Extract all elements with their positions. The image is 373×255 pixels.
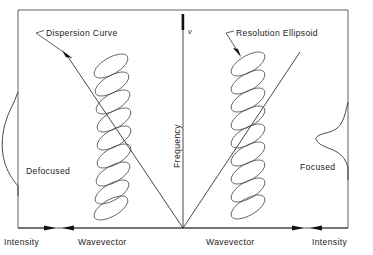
defocused-label: Defocused <box>26 166 70 176</box>
resolution-ellipsoid-chain-right <box>227 47 268 224</box>
resolution-ellipsoid-arrowhead-icon <box>233 48 241 57</box>
figure-root: Dispersion Curve Resolution Ellipsoid ν … <box>0 0 373 255</box>
frequency-axis-arrow-icon <box>182 14 185 30</box>
intensity-label-left: Intensity <box>4 237 40 247</box>
bottom-left-axis-arrows <box>18 225 183 230</box>
bottom-right-axis-arrows <box>183 225 348 230</box>
intensity-profile-defocused <box>2 92 18 196</box>
nu-symbol-label: ν <box>188 27 192 36</box>
bottom-axis-text-labels: Intensity Wavevector Wavevector Intensit… <box>4 237 348 247</box>
dispersion-curve-annotation: Dispersion Curve <box>36 28 118 58</box>
wavevector-label-right: Wavevector <box>206 237 255 247</box>
frequency-axis-labels: ν Frequency <box>172 27 192 168</box>
resolution-ellipsoid-annotation: Resolution Ellipsoid <box>226 28 318 57</box>
wavevector-right-direction-arrow-icon <box>292 225 304 230</box>
resolution-ellipsoid-leader-tick <box>226 31 234 33</box>
frequency-axis-label: Frequency <box>172 124 182 168</box>
frequency-axis <box>182 14 185 228</box>
intensity-direction-arrow-icon <box>44 225 56 230</box>
dispersion-curve-label: Dispersion Curve <box>46 28 118 38</box>
focused-label: Focused <box>300 162 335 172</box>
resolution-ellipsoid-chain-left <box>90 49 134 225</box>
resolution-ellipsoid-label: Resolution Ellipsoid <box>236 28 318 38</box>
wavevector-label-left: Wavevector <box>78 237 127 247</box>
intensity-label-right: Intensity <box>312 237 348 247</box>
dispersion-curve-leader-tick <box>36 31 44 34</box>
diagram-canvas: Dispersion Curve Resolution Ellipsoid ν … <box>0 0 373 255</box>
